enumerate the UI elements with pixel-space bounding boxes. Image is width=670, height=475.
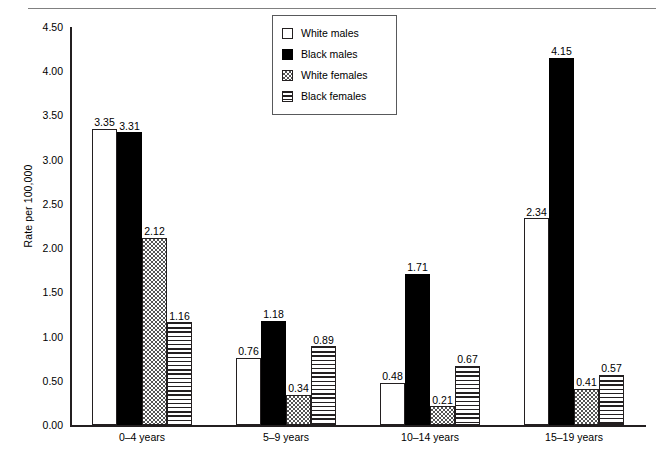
bar-value-label: 0.34 [288, 383, 308, 394]
bar-value-label: 2.34 [526, 207, 546, 218]
bar-value-label: 1.18 [263, 309, 283, 320]
bar-value-label: 0.21 [432, 395, 452, 406]
bar-chart-figure: Rate per 100,000 4.504.003.503.002.502.0… [0, 0, 670, 475]
bar-value-label: 0.89 [313, 335, 333, 346]
x-axis-category-label: 0–4 years [92, 431, 192, 443]
y-axis-tick-label: 4.00 [23, 66, 63, 77]
bar-value-label: 4.15 [551, 46, 571, 57]
bar: 0.89 [311, 346, 336, 425]
bar-group: 2.344.150.410.5715–19 years [524, 27, 624, 425]
bar: 2.34 [524, 218, 549, 425]
bar-value-label: 0.41 [576, 377, 596, 388]
legend-item: White females [282, 65, 387, 86]
bar: 1.16 [167, 322, 192, 425]
y-axis-tick-label: 3.00 [23, 154, 63, 165]
bar-value-label: 0.57 [601, 363, 621, 374]
legend-swatch-icon [282, 28, 293, 39]
legend-item-label: Black females [301, 91, 366, 102]
bar: 3.35 [92, 129, 117, 425]
bar: 1.71 [405, 274, 430, 425]
legend-item-label: White females [301, 70, 368, 81]
bar: 0.76 [236, 358, 261, 425]
bar: 3.31 [117, 132, 142, 425]
y-axis-tick-label: 1.50 [23, 287, 63, 298]
legend-item: Black males [282, 44, 387, 65]
y-axis-line [70, 27, 72, 426]
legend-swatch-icon [282, 49, 293, 60]
bar-value-label: 3.31 [119, 121, 139, 132]
bar: 0.34 [286, 395, 311, 425]
legend-item-label: White males [301, 28, 359, 39]
legend-swatch-icon [282, 91, 293, 102]
y-axis-tick-label: 3.50 [23, 110, 63, 121]
bar: 0.67 [455, 366, 480, 425]
bar: 0.48 [380, 383, 405, 425]
x-axis-line [70, 425, 646, 427]
x-axis-category-label: 5–9 years [236, 431, 336, 443]
bar-value-label: 0.67 [457, 354, 477, 365]
bar-value-label: 2.12 [144, 226, 164, 237]
legend-item-label: Black males [301, 49, 358, 60]
legend-item: Black females [282, 86, 387, 107]
top-divider-rule [28, 8, 656, 9]
legend-item: White males [282, 23, 387, 44]
legend-swatch-icon [282, 70, 293, 81]
y-axis-tick-label: 0.50 [23, 376, 63, 387]
bar: 0.41 [574, 389, 599, 425]
chart-legend: White malesBlack malesWhite femalesBlack… [272, 15, 397, 115]
bar-value-label: 1.16 [169, 311, 189, 322]
x-axis-category-label: 10–14 years [380, 431, 480, 443]
bar: 2.12 [142, 238, 167, 426]
bar: 4.15 [549, 58, 574, 425]
y-axis-tick-label: 2.00 [23, 243, 63, 254]
bar: 0.21 [430, 406, 455, 425]
bar-value-label: 0.48 [382, 371, 402, 382]
y-axis-tick-label: 1.00 [23, 331, 63, 342]
bar-group: 3.353.312.121.160–4 years [92, 27, 192, 425]
bar-value-label: 3.35 [94, 117, 114, 128]
y-axis-tick-label: 4.50 [23, 22, 63, 33]
bar: 0.57 [599, 375, 624, 425]
x-axis-category-label: 15–19 years [524, 431, 624, 443]
bar-value-label: 1.71 [407, 262, 427, 273]
bar-value-label: 0.76 [238, 346, 258, 357]
bar: 1.18 [261, 321, 286, 425]
y-axis-tick-label: 2.50 [23, 199, 63, 210]
y-axis-tick-label: 0.00 [23, 420, 63, 431]
